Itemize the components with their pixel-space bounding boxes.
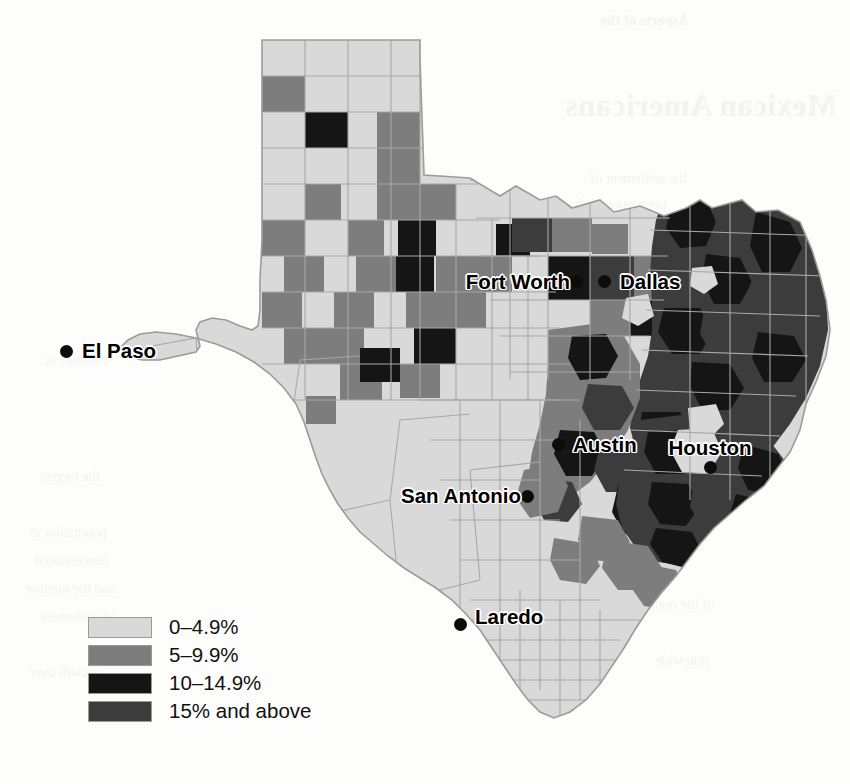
- legend-swatch: [88, 617, 152, 638]
- map-legend: 0–4.9%5–9.9%10–14.9%15% and above: [88, 614, 311, 726]
- legend-row: 10–14.9%: [88, 670, 311, 696]
- west-texas-counties: [196, 388, 300, 452]
- city-label-el-paso: El Paso: [82, 341, 156, 362]
- city-dot-laredo: [454, 618, 467, 631]
- city-dot-el-paso: [60, 345, 73, 358]
- city-dot-fort-worth: [570, 275, 583, 288]
- city-dot-houston: [704, 461, 717, 474]
- city-dot-san-antonio: [521, 490, 534, 503]
- city-label-houston: Houston: [668, 438, 751, 459]
- city-dot-dallas: [598, 275, 611, 288]
- city-label-laredo: Laredo: [475, 607, 543, 628]
- legend-label: 10–14.9%: [169, 673, 261, 694]
- city-label-austin: Austin: [573, 435, 637, 456]
- city-label-san-antonio: San Antonio: [401, 486, 521, 507]
- legend-label: 5–9.9%: [169, 645, 239, 666]
- legend-row: 0–4.9%: [88, 614, 311, 640]
- city-label-fort-worth: Fort Worth: [466, 272, 570, 293]
- legend-row: 5–9.9%: [88, 642, 311, 668]
- legend-label: 15% and above: [169, 701, 311, 722]
- legend-swatch: [88, 701, 152, 722]
- city-label-dallas: Dallas: [620, 272, 680, 293]
- city-dot-austin: [552, 438, 565, 451]
- legend-swatch: [88, 673, 152, 694]
- legend-row: 15% and above: [88, 698, 311, 724]
- legend-label: 0–4.9%: [169, 617, 239, 638]
- legend-swatch: [88, 645, 152, 666]
